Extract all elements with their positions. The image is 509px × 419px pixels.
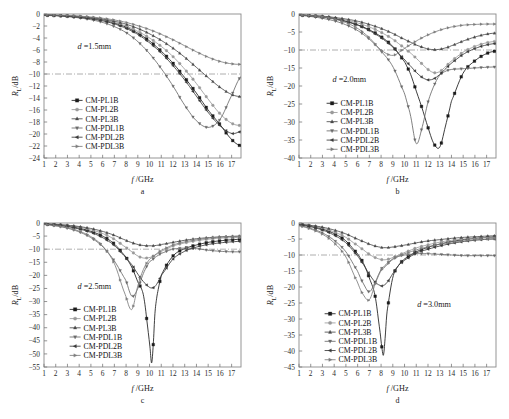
x-tick-label: 5 [344, 160, 348, 169]
x-tick-label: 3 [321, 369, 325, 378]
x-tick-label: 3 [66, 369, 70, 378]
legend-label: CM-PL1B [84, 305, 117, 314]
thickness-annotation: d =2.0mm [332, 75, 366, 84]
y-tick-label: −10 [28, 70, 40, 79]
legend-label: CM-PDL1B [84, 333, 123, 342]
legend-label: CM-PL2B [339, 319, 372, 328]
x-axis-title: f /GHz [131, 175, 153, 184]
legend-marker [73, 308, 76, 311]
thickness-annotation: d =3.0mm [417, 300, 451, 309]
legend-item-CM-PL2B[interactable]: CM-PL2B [72, 105, 119, 114]
legend-item-CM-PDL2B[interactable]: CM-PDL2B [72, 133, 125, 142]
legend-marker [76, 145, 79, 148]
legend-item-CM-PDL3B[interactable]: CM-PDL3B [327, 145, 380, 154]
y-tick-label: −16 [28, 106, 40, 115]
legend-marker [74, 354, 77, 357]
x-tick-label: 16 [216, 160, 224, 169]
legend-item-CM-PL1B[interactable]: CM-PL1B [327, 99, 374, 108]
legend-label: CM-PDL1B [339, 337, 378, 346]
x-tick-label: 1 [42, 160, 46, 169]
legend-marker [331, 148, 334, 151]
legend-label: CM-PL3B [339, 328, 372, 337]
x-tick-label: 10 [146, 369, 154, 378]
plot-frame [299, 223, 496, 367]
chart-panel-d: 0−5−10−15−20−25−30−35−40−451234567891011… [255, 209, 509, 418]
x-tick-label: 7 [368, 160, 372, 169]
y-axis-title: RL/dB [11, 75, 22, 97]
legend-item-CM-PDL2B[interactable]: CM-PDL2B [327, 136, 380, 145]
x-axis-title: f /GHz [131, 384, 153, 393]
x-tick-label: 3 [321, 160, 325, 169]
y-axis-title: RL/dB [266, 284, 277, 306]
x-tick-label: 4 [332, 369, 336, 378]
y-tick-label: 0 [291, 10, 295, 19]
legend-item-CM-PDL3B[interactable]: CM-PDL3B [325, 355, 378, 364]
x-tick-label: 15 [459, 369, 467, 378]
x-tick-label: 12 [424, 369, 432, 378]
legend-label: CM-PL2B [84, 314, 117, 323]
legend-item-CM-PDL2B[interactable]: CM-PDL2B [70, 342, 123, 351]
x-tick-label: 10 [146, 160, 154, 169]
legend-item-CM-PDL1B[interactable]: CM-PDL1B [327, 127, 380, 136]
x-tick-label: 9 [391, 160, 395, 169]
legend-item-CM-PL2B[interactable]: CM-PL2B [325, 319, 372, 328]
legend-item-CM-PL3B[interactable]: CM-PL3B [72, 115, 119, 124]
legend-item-CM-PDL1B[interactable]: CM-PDL1B [72, 124, 125, 133]
x-tick-label: 12 [424, 160, 432, 169]
legend-item-CM-PDL2B[interactable]: CM-PDL2B [325, 346, 378, 355]
series-markers-CM-PDL1B [301, 225, 496, 293]
series-markers-CM-PDL1B [46, 224, 241, 298]
y-axis-title: RL/dB [11, 284, 22, 306]
panel-letter-d: d [396, 396, 400, 405]
y-tick-label: −5 [287, 235, 295, 244]
legend-item-CM-PL1B[interactable]: CM-PL1B [325, 309, 372, 318]
legend-item-CM-PL3B[interactable]: CM-PL3B [70, 324, 117, 333]
x-tick-label: 5 [344, 369, 348, 378]
x-tick-label: 15 [459, 160, 467, 169]
legend-label: CM-PDL2B [86, 133, 125, 142]
x-tick-label: 6 [356, 160, 360, 169]
legend-item-CM-PL1B[interactable]: CM-PL1B [70, 305, 117, 314]
series-line-CM-PL1B [299, 15, 496, 148]
y-tick-label: −15 [283, 267, 295, 276]
y-tick-label: −25 [28, 284, 40, 293]
series-line-CM-PDL1B [44, 16, 241, 128]
legend-marker [328, 321, 331, 324]
legend-item-CM-PDL3B[interactable]: CM-PDL3B [72, 142, 125, 151]
legend-item-CM-PL2B[interactable]: CM-PL2B [327, 108, 374, 117]
legend-marker [73, 317, 76, 320]
series-markers-CM-PL3B [301, 223, 496, 249]
x-tick-label: 17 [228, 369, 236, 378]
y-tick-label: −45 [283, 363, 295, 372]
legend-item-CM-PL1B[interactable]: CM-PL1B [72, 96, 119, 105]
x-tick-label: 16 [216, 369, 224, 378]
legend-item-CM-PL2B[interactable]: CM-PL2B [70, 314, 117, 323]
legend-marker [75, 136, 78, 139]
x-tick-label: 4 [332, 160, 336, 169]
thickness-annotation: d =1.5mm [77, 42, 111, 51]
y-tick-label: −50 [28, 350, 40, 359]
x-tick-label: 11 [158, 160, 165, 169]
legend-item-CM-PDL3B[interactable]: CM-PDL3B [70, 351, 123, 360]
x-tick-label: 2 [309, 160, 313, 169]
x-tick-label: 6 [356, 369, 360, 378]
x-tick-label: 17 [483, 369, 491, 378]
y-tick-label: −2 [32, 22, 40, 31]
series-line-CM-PL1B [44, 224, 241, 363]
legend-label: CM-PDL3B [84, 351, 123, 360]
y-tick-label: −20 [28, 130, 40, 139]
chart-panel-c: 0−5−10−15−20−25−30−35−40−45−50−551234567… [0, 209, 254, 418]
x-tick-label: 3 [66, 160, 70, 169]
series-markers-CM-PL2B [301, 14, 496, 74]
legend-item-CM-PDL1B[interactable]: CM-PDL1B [325, 337, 378, 346]
legend-item-CM-PL3B[interactable]: CM-PL3B [327, 117, 374, 126]
x-tick-label: 1 [297, 160, 301, 169]
x-tick-label: 15 [204, 369, 212, 378]
legend-marker [330, 111, 333, 114]
legend-item-CM-PDL1B[interactable]: CM-PDL1B [70, 333, 123, 342]
y-tick-label: −40 [28, 323, 40, 332]
legend-item-CM-PL3B[interactable]: CM-PL3B [325, 328, 372, 337]
legend-label: CM-PDL1B [86, 124, 125, 133]
series-line-CM-PL1B [299, 225, 496, 356]
x-tick-label: 16 [471, 369, 479, 378]
